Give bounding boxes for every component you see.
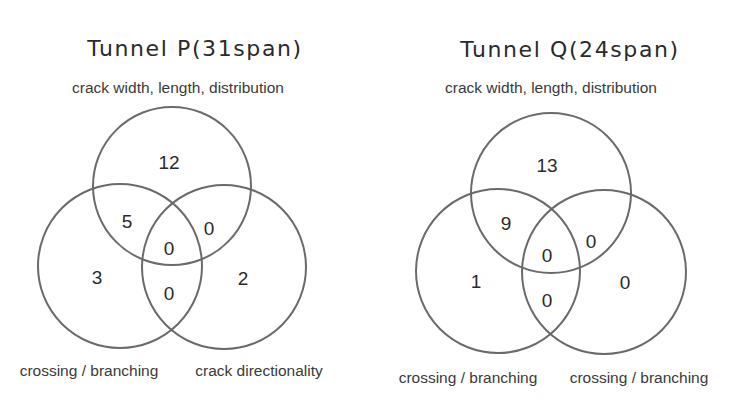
- tunnel-p-circle-right: [142, 185, 306, 349]
- tunnel-q-value-top-left: 9: [501, 213, 512, 234]
- venn-tunnel-p: Tunnel P(31span) crack width, length, di…: [20, 36, 323, 379]
- tunnel-q-label-bottom-right: crossing / branching: [570, 369, 709, 386]
- tunnel-p-value-top-right: 0: [204, 218, 215, 239]
- tunnel-p-value-top-only: 12: [158, 152, 179, 173]
- tunnel-q-title: Tunnel Q(24span): [459, 37, 680, 62]
- tunnel-q-value-center: 0: [542, 245, 553, 266]
- tunnel-p-value-top-left: 5: [122, 211, 133, 232]
- tunnel-q-value-right-only: 0: [620, 272, 631, 293]
- tunnel-q-label-top: crack width, length, distribution: [445, 79, 657, 96]
- tunnel-p-label-bottom-right: crack directionality: [195, 362, 323, 379]
- venn-diagrams: Tunnel P(31span) crack width, length, di…: [0, 0, 739, 415]
- tunnel-q-label-bottom-left: crossing / branching: [399, 369, 538, 386]
- tunnel-p-value-right-only: 2: [238, 268, 249, 289]
- tunnel-p-circle-left: [38, 184, 202, 348]
- tunnel-q-value-left-only: 1: [471, 271, 482, 292]
- tunnel-p-label-top: crack width, length, distribution: [72, 79, 284, 96]
- tunnel-q-value-top-only: 13: [536, 155, 557, 176]
- tunnel-p-title: Tunnel P(31span): [86, 36, 302, 61]
- tunnel-p-value-left-only: 3: [92, 267, 103, 288]
- tunnel-p-value-bottom: 0: [164, 283, 175, 304]
- tunnel-q-circle-left: [416, 189, 580, 353]
- tunnel-q-value-bottom: 0: [542, 290, 553, 311]
- tunnel-p-label-bottom-left: crossing / branching: [20, 362, 159, 379]
- venn-tunnel-q: Tunnel Q(24span) crack width, length, di…: [399, 37, 709, 386]
- tunnel-p-value-center: 0: [164, 238, 175, 259]
- tunnel-q-value-top-right: 0: [586, 231, 597, 252]
